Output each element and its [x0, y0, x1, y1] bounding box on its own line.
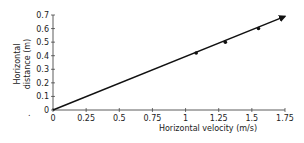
- y-tick-label: 0.1: [36, 92, 49, 101]
- y-axis-title-line2: distance (m): [23, 39, 32, 89]
- y-tick-label: 0.4: [36, 52, 49, 61]
- x-tick-label: 1: [183, 114, 188, 123]
- y-tick-label: 0.7: [36, 11, 49, 20]
- y-tick-label: 0.6: [36, 25, 49, 34]
- stray-dot-mark: .: [28, 109, 31, 118]
- y-axis-title-line1: Horizontal: [13, 44, 22, 85]
- x-tick-label: 1.5: [245, 114, 258, 123]
- data-point: [194, 51, 198, 55]
- y-tick-label: 0.2: [36, 79, 49, 88]
- x-tick-label: 0: [50, 114, 55, 123]
- x-tick-label: 0.75: [144, 114, 162, 123]
- data-point: [257, 27, 261, 31]
- data-series: [53, 16, 285, 110]
- x-tick-label: 1.75: [276, 114, 294, 123]
- x-tick-label: 1.25: [210, 114, 228, 123]
- y-axis-ticks: 00.10.20.30.40.50.60.7: [36, 11, 55, 115]
- y-tick-label: 0.3: [36, 65, 49, 74]
- y-tick-label: 0: [44, 106, 49, 115]
- data-point: [224, 40, 228, 44]
- y-tick-label: 0.5: [36, 38, 49, 47]
- trend-line-arrow: [53, 16, 285, 110]
- x-tick-label: 0.5: [113, 114, 126, 123]
- x-axis-title: Horizontal velocity (m/s): [159, 124, 257, 133]
- x-tick-label: 0.25: [77, 114, 95, 123]
- line-chart: 00.10.20.30.40.50.60.7 00.250.50.7511.25…: [0, 0, 304, 143]
